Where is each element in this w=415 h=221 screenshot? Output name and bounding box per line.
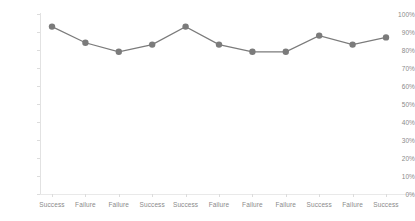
data-point: [249, 49, 255, 55]
data-point: [283, 49, 289, 55]
data-point: [49, 23, 55, 29]
data-point: [82, 40, 88, 46]
data-point: [383, 34, 389, 40]
data-point: [316, 32, 322, 38]
data-point: [216, 41, 222, 47]
data-point: [349, 41, 355, 47]
data-point: [149, 41, 155, 47]
series-line: [52, 27, 386, 52]
series-markers: [49, 23, 389, 55]
line-chart: 0%10%20%30%40%50%60%70%80%90%100% Succes…: [0, 0, 415, 221]
data-point: [182, 23, 188, 29]
series-plot-area: [0, 0, 415, 221]
data-point: [116, 49, 122, 55]
